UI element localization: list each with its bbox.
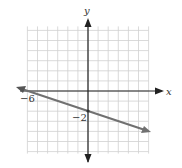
line-right-arrow-icon: [141, 126, 151, 133]
y-axis-down-arrow-icon: [85, 154, 92, 163]
y-axis-up-arrow-icon: [85, 18, 92, 27]
y-intercept-label: −2: [72, 112, 87, 123]
x-intercept-label: −6: [20, 93, 35, 104]
coordinate-plane: y x −6 −2: [0, 0, 182, 168]
line-left-arrow-icon: [16, 86, 26, 93]
plotted-line: [16, 86, 151, 133]
x-axis: [20, 88, 164, 95]
y-axis-label: y: [83, 5, 90, 16]
y-intercept-point: [86, 109, 89, 112]
x-axis-arrow-icon: [155, 88, 164, 95]
x-axis-label: x: [166, 86, 172, 97]
